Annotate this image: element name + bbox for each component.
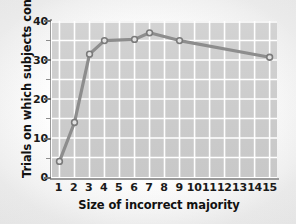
x-tick-label: 9 — [175, 181, 182, 194]
x-tick-label: 2 — [70, 181, 77, 194]
y-axis-tick — [44, 20, 51, 22]
y-tick-label: 30 — [33, 55, 48, 66]
x-tick-label: 3 — [85, 181, 92, 194]
x-tick-label: 12 — [217, 181, 232, 194]
x-axis-title: Size of incorrect majority — [0, 198, 296, 212]
x-tick-label: 5 — [115, 181, 122, 194]
y-axis-tick — [44, 98, 51, 100]
x-tick-label: 15 — [262, 181, 277, 194]
y-tick-label: 40 — [33, 16, 48, 27]
x-tick-label: 8 — [160, 181, 167, 194]
y-axis-tick — [44, 177, 51, 179]
x-tick-label: 7 — [145, 181, 152, 194]
y-axis-tick — [44, 59, 51, 61]
x-axis-tick-labels: 1 2 3 4 5 6 7 8 9 10 11 12 13 14 15 — [51, 181, 277, 197]
x-axis-line — [50, 178, 279, 180]
data-series-conformity-rate — [52, 21, 277, 177]
x-tick-label: 4 — [100, 181, 107, 194]
chart-figure: Trials on which subjects conform (%) 40 … — [0, 0, 296, 224]
x-tick-label: 14 — [247, 181, 262, 194]
x-tick-label: 1 — [55, 181, 62, 194]
plot-area — [51, 21, 277, 178]
y-tick-label: 20 — [33, 94, 48, 105]
y-axis-tick — [44, 138, 51, 140]
x-axis-title-text: Size of incorrect majority — [56, 198, 240, 212]
x-tick-label: 11 — [202, 181, 217, 194]
x-tick-label: 6 — [130, 181, 137, 194]
x-tick-label: 10 — [187, 181, 202, 194]
x-tick-label: 13 — [232, 181, 247, 194]
